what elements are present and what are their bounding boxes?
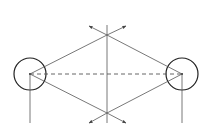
bottom-left-arrow (89, 113, 107, 123)
top-left-arrow (89, 26, 107, 35)
top-right-arrow (107, 26, 126, 35)
bottom-right-arrow (107, 113, 126, 123)
bisector-diagram (0, 0, 211, 137)
rhombus-bottom-right (107, 74, 182, 113)
rhombus-bottom-left (30, 74, 107, 113)
rhombus-top-right (107, 35, 182, 74)
rhombus-top-left (30, 35, 107, 74)
